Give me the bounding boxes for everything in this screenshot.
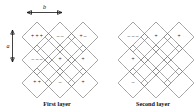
panel-second-layer: – – – + + + – Second layer — [118, 22, 194, 107]
first-layer-sign-labels: + + + – – + – – – – + + + + – + — [31, 33, 87, 85]
cell-sign: + + + — [31, 33, 43, 39]
cell-sign: – – – — [31, 56, 43, 62]
cell-sign: + — [81, 56, 84, 62]
cell-sign: + — [81, 79, 84, 85]
first-layer-caption: First layer — [43, 100, 71, 107]
cell-sign: – — [131, 79, 135, 85]
figure-canvas: b a — [0, 0, 196, 110]
cell-sign: + — [177, 33, 180, 39]
axis-b-group: b — [27, 4, 62, 14]
cell-sign: – — [58, 79, 62, 85]
second-layer-caption: Second layer — [136, 100, 170, 107]
axis-b-label: b — [43, 4, 46, 10]
cell-sign: + – — [79, 33, 86, 39]
cell-sign: + + — [33, 79, 40, 85]
cell-sign: – – – — [127, 33, 139, 39]
cell-sign: + — [154, 33, 157, 39]
axis-a-label: a — [7, 43, 10, 49]
diamond-cell — [141, 68, 171, 98]
diamond-cell — [164, 45, 194, 75]
cell-sign: + — [58, 56, 61, 62]
cell-sign: – – — [56, 33, 64, 39]
panel-first-layer: + + + – – + – – – – + + + + – + First la… — [22, 22, 98, 107]
diamond-cell — [153, 57, 183, 87]
diamond-cell — [141, 45, 171, 75]
diamond-cell — [164, 68, 194, 98]
lattice-layers-figure: b a — [0, 0, 196, 110]
axis-a-group: a — [7, 30, 15, 62]
cell-sign: + — [131, 56, 134, 62]
